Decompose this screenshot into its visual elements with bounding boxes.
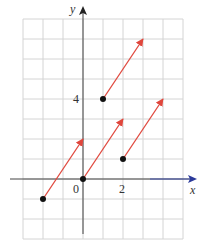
point-marker [80,176,86,182]
origin-label: 0 [73,182,79,196]
point-marker [120,156,126,162]
grid [23,19,183,239]
vector-translation-diagram: y x 0 2 4 [0,0,207,240]
x-axis-label: x [189,183,196,197]
point-marker [40,196,46,202]
point-marker [100,96,106,102]
y-tick-label-4: 4 [73,92,79,106]
x-tick-label-2: 2 [119,182,125,196]
y-axis-label: y [69,2,76,16]
